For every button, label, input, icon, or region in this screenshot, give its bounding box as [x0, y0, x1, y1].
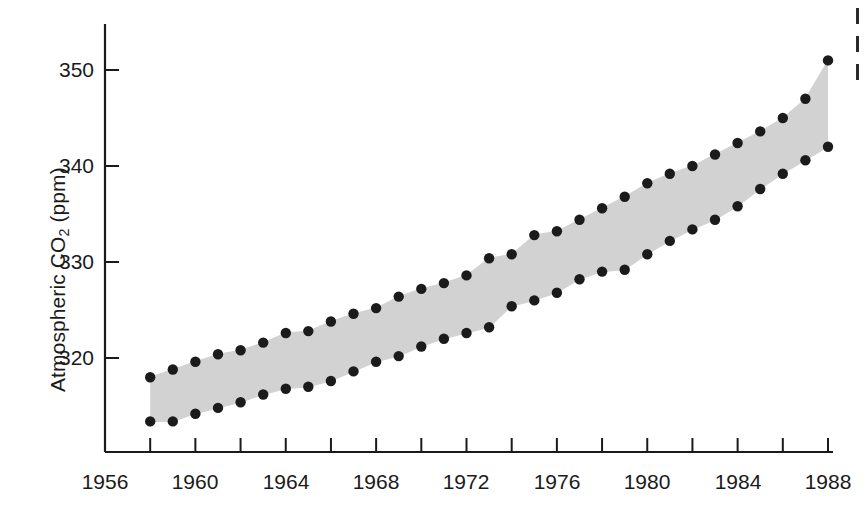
data-point: [258, 389, 268, 399]
data-point: [281, 328, 291, 338]
data-point: [574, 215, 584, 225]
data-point: [235, 345, 245, 355]
data-point: [213, 349, 223, 359]
data-point: [687, 161, 697, 171]
data-point: [303, 382, 313, 392]
data-point: [665, 236, 675, 246]
data-point: [710, 149, 720, 159]
data-point: [507, 301, 517, 311]
data-point: [620, 265, 630, 275]
data-point: [642, 249, 652, 259]
data-point: [213, 403, 223, 413]
x-tick-label-1956: 1956: [82, 470, 129, 494]
data-point: [168, 416, 178, 426]
data-point: [755, 126, 765, 136]
y-tick-label-340: 340: [59, 154, 94, 178]
data-point: [732, 138, 742, 148]
data-point: [190, 357, 200, 367]
data-point: [484, 322, 494, 332]
data-point: [326, 376, 336, 386]
data-point: [597, 266, 607, 276]
data-point: [732, 201, 742, 211]
data-point: [778, 113, 788, 123]
data-point: [620, 192, 630, 202]
data-point: [281, 384, 291, 394]
data-point: [416, 341, 426, 351]
plot-canvas: [0, 0, 866, 519]
data-point: [642, 178, 652, 188]
data-point: [484, 253, 494, 263]
data-point: [439, 334, 449, 344]
data-point: [778, 169, 788, 179]
data-point: [687, 224, 697, 234]
x-tick-label-1968: 1968: [353, 470, 400, 494]
data-point: [371, 357, 381, 367]
data-point: [461, 270, 471, 280]
data-point: [416, 284, 426, 294]
data-point: [597, 203, 607, 213]
x-tick-label-1980: 1980: [624, 470, 671, 494]
cropped-edge-mark-1: [856, 8, 859, 24]
x-axis-ticks: [105, 438, 828, 452]
data-point: [145, 416, 155, 426]
data-point: [800, 94, 810, 104]
data-point: [394, 351, 404, 361]
x-tick-label-1984: 1984: [715, 470, 762, 494]
data-point: [439, 278, 449, 288]
data-point: [348, 366, 358, 376]
data-point: [145, 372, 155, 382]
data-point: [258, 337, 268, 347]
data-point: [529, 295, 539, 305]
y-tick-label-320: 320: [59, 346, 94, 370]
data-point: [800, 155, 810, 165]
data-point: [371, 303, 381, 313]
annual-maximum-markers: [145, 55, 833, 382]
y-tick-label-330: 330: [59, 250, 94, 274]
co2-envelope-band: [150, 60, 828, 421]
data-point: [823, 55, 833, 65]
data-point: [326, 316, 336, 326]
x-tick-label-1988: 1988: [805, 470, 852, 494]
data-point: [190, 409, 200, 419]
x-tick-label-1972: 1972: [443, 470, 490, 494]
data-point: [552, 288, 562, 298]
cropped-edge-mark-2: [856, 36, 859, 52]
y-axis-ticks: [105, 70, 119, 358]
data-point: [394, 291, 404, 301]
data-point: [823, 142, 833, 152]
data-point: [552, 226, 562, 236]
data-point: [529, 230, 539, 240]
data-point: [755, 184, 765, 194]
data-point: [574, 274, 584, 284]
data-point: [348, 309, 358, 319]
data-point: [507, 249, 517, 259]
data-point: [168, 364, 178, 374]
co2-envelope-chart: Atmospheric CO2 (ppm) 320 330 340 350 19…: [0, 0, 866, 519]
x-tick-label-1964: 1964: [263, 470, 310, 494]
y-axis-title-subscript: 2: [56, 229, 72, 237]
data-point: [303, 326, 313, 336]
data-point: [461, 328, 471, 338]
y-axis-title: Atmospheric CO2 (ppm): [46, 32, 76, 392]
data-point: [665, 169, 675, 179]
cropped-edge-mark-3: [856, 64, 859, 80]
data-point: [235, 397, 245, 407]
x-tick-label-1976: 1976: [534, 470, 581, 494]
data-point: [710, 215, 720, 225]
y-tick-label-350: 350: [59, 58, 94, 82]
x-tick-label-1960: 1960: [172, 470, 219, 494]
